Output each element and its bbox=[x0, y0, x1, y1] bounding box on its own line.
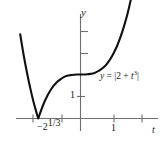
exponent-one-third: 1/3 bbox=[48, 117, 61, 128]
equation-equals: = bbox=[104, 71, 114, 81]
x-axis-label: t bbox=[152, 125, 155, 135]
equation-term-two: 2 + bbox=[116, 71, 131, 81]
curve-absolute-value-cubic bbox=[20, 0, 133, 119]
equation-bar-close: | bbox=[137, 71, 139, 81]
y-axis-tick-label-one: 1 bbox=[70, 90, 75, 100]
figure-graph-absolute-value-cubic: y t −21/3 1 1 y = |2 + t3| bbox=[0, 0, 165, 145]
plot-canvas bbox=[0, 0, 165, 145]
x-axis-tick-label-one: 1 bbox=[111, 123, 116, 133]
curve-equation-annotation: y = |2 + t3| bbox=[100, 72, 139, 82]
y-axis-label: y bbox=[81, 7, 86, 18]
x-axis-tick-label-cuberoot: −21/3 bbox=[37, 122, 60, 132]
